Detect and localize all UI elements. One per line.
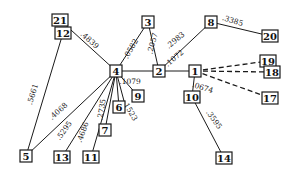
node-label: 12 [56, 28, 70, 39]
node-21: 21 [52, 14, 68, 26]
node-label: 5 [23, 151, 30, 162]
node-label: 10 [185, 92, 199, 103]
edge-weight-label: .2057 [145, 32, 159, 55]
edge-weight-label: .2983 [164, 30, 186, 51]
node-label: 3 [145, 17, 152, 28]
node-label: 9 [135, 91, 142, 102]
node-17: 17 [262, 92, 278, 104]
network-diagram: .4839.5661.4068.5295.4686.2735.1079.1523… [0, 0, 296, 178]
edge-weight-label: .1072 [163, 48, 185, 69]
node-1: 1 [189, 65, 201, 77]
node-7: 7 [99, 124, 111, 136]
node-label: 20 [263, 31, 277, 42]
node-8: 8 [205, 16, 217, 28]
node-12: 12 [55, 27, 71, 39]
node-5: 5 [20, 150, 32, 162]
node-label: 2 [156, 66, 163, 77]
node-label: 6 [116, 102, 123, 113]
edge-weight-label: .4686 [75, 120, 91, 143]
node-4: 4 [110, 65, 122, 77]
edge-weight-label: .0582 [122, 37, 141, 60]
node-9: 9 [132, 90, 144, 102]
node-label: 13 [55, 152, 69, 163]
node-10: 10 [184, 91, 200, 103]
node-label: 1 [192, 66, 199, 77]
node-label: 14 [217, 153, 231, 164]
node-20: 20 [262, 30, 278, 42]
node-label: 4 [113, 66, 120, 77]
node-3: 3 [142, 16, 154, 28]
node-18: 18 [264, 66, 280, 78]
node-13: 13 [54, 151, 70, 163]
node-6: 6 [113, 101, 125, 113]
edge-1-18 [195, 71, 272, 72]
edge-weight-label: .3595 [204, 108, 224, 131]
node-2: 2 [153, 65, 165, 77]
node-label: 21 [53, 15, 67, 26]
edge-1-19 [195, 61, 268, 71]
node-label: 18 [265, 67, 279, 78]
node-19: 19 [260, 55, 276, 67]
edge-weight-label: .5661 [25, 83, 40, 106]
node-14: 14 [216, 152, 232, 164]
node-11: 11 [83, 151, 99, 163]
node-label: 7 [102, 125, 109, 136]
node-label: 8 [208, 17, 215, 28]
node-label: 11 [84, 152, 98, 163]
edge-weight-label: .3385 [221, 13, 244, 28]
edge-weight-label: .1079 [119, 77, 141, 86]
node-label: 19 [261, 56, 275, 67]
edge-weight-label: .5295 [54, 119, 74, 142]
node-label: 17 [263, 93, 277, 104]
